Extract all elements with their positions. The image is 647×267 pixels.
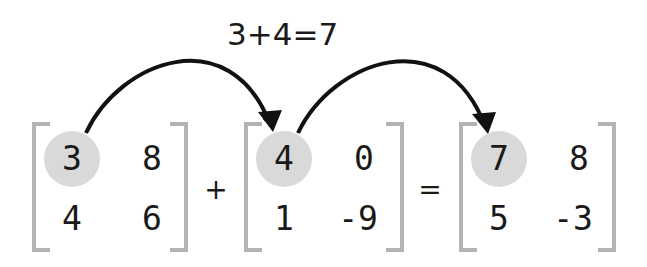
matrix-c-cell-1-0: 5 xyxy=(471,191,527,247)
matrix-b-cell-0-1: 0 xyxy=(336,131,392,187)
matrix-c-cell-0-0: 7 xyxy=(471,131,527,187)
matrix-b-cell-1-1: -9 xyxy=(330,191,386,247)
matrix-a-cell-0-0: 3 xyxy=(44,131,100,187)
matrix-b-cell-0-0: 4 xyxy=(256,131,312,187)
matrix-c-cell-0-1: 8 xyxy=(551,131,607,187)
sum-caption: 3+4=7 xyxy=(227,16,338,52)
matrix-c-cell-1-1: -3 xyxy=(545,191,601,247)
matrix-a-cell-0-1: 8 xyxy=(124,131,180,187)
matrix-b-cell-1-0: 1 xyxy=(256,191,312,247)
plus-operator: + xyxy=(204,173,227,206)
matrix-a-cell-1-0: 4 xyxy=(44,191,100,247)
equals-operator: = xyxy=(418,173,441,206)
matrix-a-cell-1-1: 6 xyxy=(124,191,180,247)
